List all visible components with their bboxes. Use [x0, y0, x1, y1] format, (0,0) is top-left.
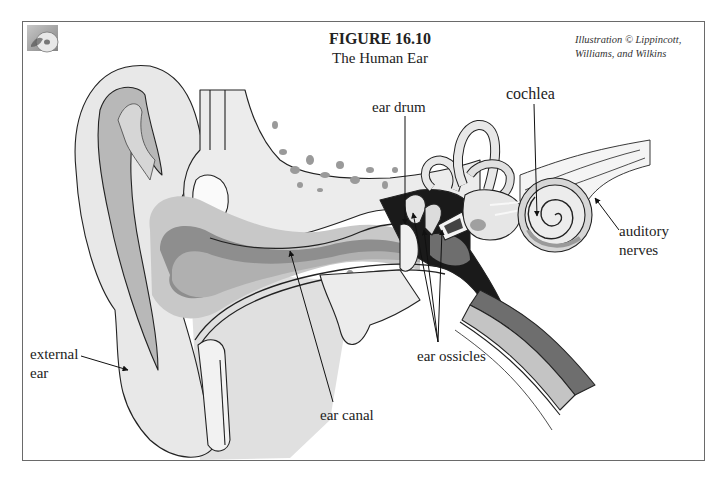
cochlea — [518, 178, 592, 252]
label-auditory-line1: auditory — [619, 222, 669, 241]
label-ear-drum: ear drum — [372, 98, 426, 117]
label-ear-canal: ear canal — [320, 406, 374, 425]
label-auditory-nerves: auditory nerves — [619, 222, 669, 260]
auditory-nerves-pointer — [595, 198, 619, 230]
label-ear-ossicles: ear ossicles — [417, 347, 486, 366]
label-cochlea: cochlea — [506, 84, 555, 103]
label-auditory-line2: nerves — [619, 241, 669, 260]
vestibule — [463, 190, 521, 240]
label-external-ear: external ear — [30, 345, 78, 383]
label-external-line1: external — [30, 345, 78, 364]
label-external-line2: ear — [30, 364, 78, 383]
